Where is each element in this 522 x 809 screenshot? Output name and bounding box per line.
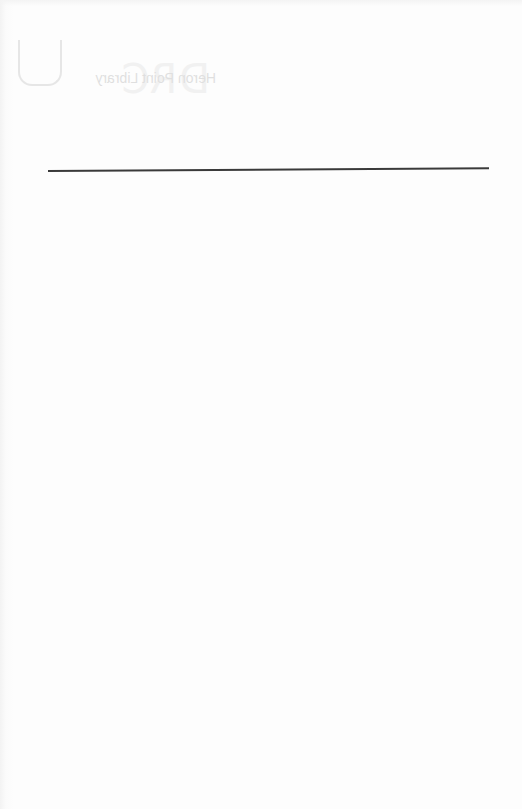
page-top-edge bbox=[0, 0, 522, 6]
scanned-page: DRC Heron Point Library bbox=[0, 0, 522, 809]
library-logo-icon bbox=[18, 40, 62, 86]
mirrored-header-showthrough: DRC Heron Point Library bbox=[18, 38, 218, 100]
horizontal-rule bbox=[48, 167, 489, 172]
library-name-showthrough: Heron Point Library bbox=[95, 70, 216, 86]
